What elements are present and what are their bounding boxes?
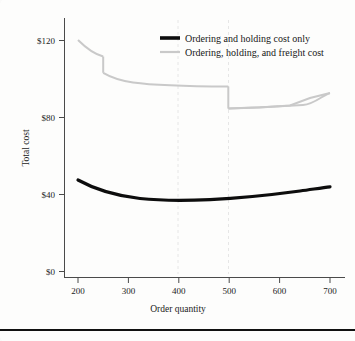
x-tick-label-300: 300 bbox=[122, 286, 136, 296]
x-tick-label-600: 600 bbox=[273, 286, 287, 296]
y-axis-title: Total cost bbox=[21, 129, 31, 166]
y-tick-label-40: $40 bbox=[42, 190, 56, 200]
freight-segment-2 bbox=[103, 73, 228, 87]
legend-label-ordering-holding-freight: Ordering, holding, and freight cost bbox=[185, 47, 324, 58]
freight-segment-1 bbox=[78, 40, 103, 57]
x-axis-ticks bbox=[78, 278, 330, 284]
gridlines bbox=[178, 20, 229, 274]
y-tick-label-120: $120 bbox=[37, 36, 56, 46]
y-tick-label-80: $80 bbox=[42, 113, 56, 123]
x-tick-label-500: 500 bbox=[222, 286, 236, 296]
x-tick-label-700: 700 bbox=[323, 286, 337, 296]
legend-label-ordering-holding-only: Ordering and holding cost only bbox=[185, 33, 310, 44]
x-axis-title: Order quantity bbox=[150, 304, 206, 314]
x-tick-label-400: 400 bbox=[172, 286, 186, 296]
chart-legend: Ordering and holding cost only Ordering,… bbox=[160, 33, 324, 58]
x-tick-label-200: 200 bbox=[71, 286, 85, 296]
y-axis-ticks bbox=[59, 41, 65, 272]
chart-figure: $120 $80 $40 $0 200 300 400 500 600 700 … bbox=[0, 0, 355, 341]
total-cost-vs-order-quantity-chart: $120 $80 $40 $0 200 300 400 500 600 700 … bbox=[0, 0, 355, 341]
black-cost-curve bbox=[78, 180, 330, 200]
page-bottom-rule bbox=[0, 329, 355, 331]
series-ordering-holding-only bbox=[78, 180, 330, 200]
y-tick-label-0: $0 bbox=[46, 267, 56, 277]
